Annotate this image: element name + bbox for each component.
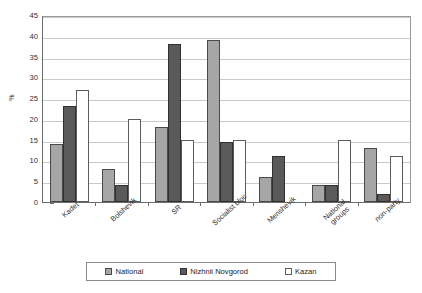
bar (50, 144, 63, 202)
y-axis-tick-mark (50, 203, 54, 204)
y-axis-tick-label: 5 (12, 178, 38, 186)
bar (76, 90, 89, 202)
y-axis-tick-label: 10 (12, 157, 38, 165)
y-axis-tick-label: 25 (12, 95, 38, 103)
bar (181, 140, 194, 202)
y-axis-tick-label: 40 (12, 33, 38, 41)
bar (377, 194, 390, 202)
x-axis-label-cell: Socialist bloc (200, 205, 253, 260)
bar-group (358, 17, 410, 202)
bar (155, 127, 168, 202)
y-axis-tick-label: 35 (12, 54, 38, 62)
bar (272, 156, 285, 202)
bar (128, 119, 141, 202)
legend-item-label: National (115, 267, 143, 276)
y-axis-tick-labels: 454035302520151050 (12, 0, 38, 293)
bar (312, 185, 325, 202)
x-axis-label-cell: National groups (306, 205, 359, 260)
bar (325, 185, 338, 202)
legend-swatch-icon (180, 268, 187, 275)
chart-legend: NationalNizhnii NovgorodKazan (86, 262, 336, 281)
y-axis-tick-label: 30 (12, 74, 38, 82)
bar-group (253, 17, 305, 202)
x-axis-category-labels: KadetBolshevikSRSocialist blocMenshevikN… (42, 205, 411, 260)
bar-groups (43, 17, 410, 202)
bar-group (95, 17, 147, 202)
bar-chart: % 454035302520151050 KadetBolshevikSRSoc… (0, 0, 422, 293)
legend-swatch-icon (285, 268, 292, 275)
y-axis-tick-label: 20 (12, 116, 38, 124)
x-axis-label-cell: Bolshevik (95, 205, 148, 260)
legend-item: Nizhnii Novgorod (180, 267, 248, 276)
bar (259, 177, 272, 202)
bar (168, 44, 181, 202)
plot-area (42, 16, 411, 203)
bar (338, 140, 351, 202)
bar-group (148, 17, 200, 202)
legend-item: National (105, 267, 143, 276)
x-axis-label-cell: Kadet (42, 205, 95, 260)
x-axis-label-cell: SR (147, 205, 200, 260)
x-axis-category-label: SR (170, 204, 183, 217)
bar (220, 142, 233, 202)
legend-item-label: Kazan (295, 267, 317, 276)
legend-swatch-icon (105, 268, 112, 275)
x-axis-label-cell: non-party (358, 205, 411, 260)
bar (364, 148, 377, 202)
x-axis-category-label: Kadet (61, 201, 81, 220)
bar (63, 106, 76, 202)
x-axis-label-cell: Menshevik (253, 205, 306, 260)
y-axis-tick-label: 45 (12, 12, 38, 20)
bar (207, 40, 220, 202)
legend-item-label: Nizhnii Novgorod (190, 267, 248, 276)
bar-group (305, 17, 357, 202)
legend-item: Kazan (285, 267, 317, 276)
bar (102, 169, 115, 202)
bar-group (43, 17, 95, 202)
bar (390, 156, 403, 202)
y-axis-tick-label: 0 (12, 199, 38, 207)
y-axis-tick-label: 15 (12, 137, 38, 145)
bar-group (200, 17, 252, 202)
